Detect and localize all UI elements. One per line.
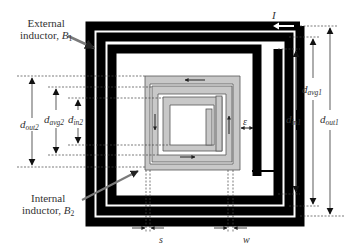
dim-davg1-label: davg1 bbox=[302, 83, 322, 99]
internal-label-line1: Internal bbox=[22, 192, 74, 204]
dim-sub: in2 bbox=[74, 118, 84, 127]
external-turn-3 bbox=[112, 49, 278, 200]
dim-dout1-label: dout1 bbox=[320, 113, 339, 129]
internal-inductor bbox=[145, 76, 240, 170]
dim-davg2-label: davg2 bbox=[44, 113, 64, 129]
internal-inductor-label: Internal inductor, B2 bbox=[22, 192, 74, 220]
external-turn-1 bbox=[90, 26, 300, 222]
dim-sub: avg2 bbox=[50, 118, 65, 127]
internal-label-line2: inductor, B2 bbox=[22, 204, 74, 220]
external-inductor-label: External inductor, B1 bbox=[20, 17, 72, 45]
dim-sub: out1 bbox=[326, 118, 339, 127]
width-label: w bbox=[243, 234, 250, 246]
dim-sub: in1 bbox=[292, 118, 302, 127]
external-label-line1: External bbox=[20, 17, 72, 29]
dim-dout2-label: dout2 bbox=[20, 118, 39, 134]
external-label-line2: inductor, B1 bbox=[20, 29, 72, 45]
dim-sub: avg1 bbox=[308, 88, 323, 97]
external-label-text: inductor, bbox=[20, 29, 62, 41]
external-inductor bbox=[90, 23, 300, 223]
dim-din2-label: din2 bbox=[68, 113, 83, 129]
internal-label-sub: 2 bbox=[70, 209, 74, 218]
dim-din1-label: din1 bbox=[286, 113, 301, 129]
current-label: I bbox=[272, 9, 276, 21]
spacing-label: s bbox=[159, 234, 163, 246]
epsilon-label: ε bbox=[243, 116, 247, 128]
external-label-sub: 1 bbox=[68, 34, 72, 43]
internal-label-text: inductor, bbox=[22, 204, 64, 216]
dim-sub: out2 bbox=[26, 123, 39, 132]
